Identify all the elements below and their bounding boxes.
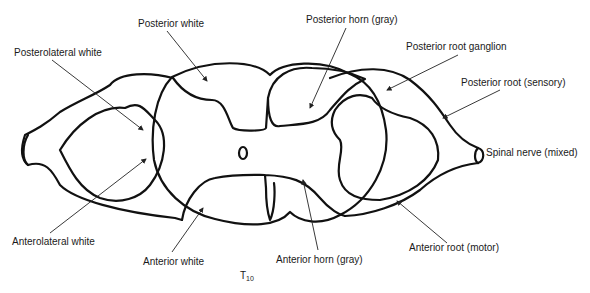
left-ganglion-outline [60, 105, 164, 201]
label-posterolateral-white: Posterolateral white [14, 47, 102, 59]
gray-matter-outline [173, 68, 365, 131]
central-canal [239, 147, 247, 159]
label-posterior-white: Posterior white [138, 18, 204, 30]
right-nerve-end [475, 148, 478, 163]
leader-posterolateral-white [52, 60, 143, 130]
leader-posterior-root [443, 90, 500, 118]
level-subscript: 10 [246, 275, 254, 282]
label-anterior-horn: Anterior horn (gray) [276, 254, 363, 266]
label-spinal-nerve: Spinal nerve (mixed) [486, 147, 578, 159]
leader-anterior-white [172, 208, 203, 252]
leader-anterior-horn [303, 180, 318, 250]
label-spinal-level: T10 [240, 270, 254, 285]
right-root-outline [330, 69, 483, 216]
label-anterior-white: Anterior white [143, 256, 204, 268]
label-anterior-root: Anterior root (motor) [409, 242, 499, 254]
leader-anterolateral-white [50, 159, 146, 233]
gray-matter-anterior [182, 175, 345, 220]
right-ganglion-outline [332, 95, 439, 200]
label-posterior-root: Posterior root (sensory) [461, 77, 565, 89]
label-posterior-root-ganglion: Posterior root ganglion [406, 41, 507, 53]
spinal-cord-diagram: Posterior white Posterolateral white Pos… [0, 0, 590, 293]
leader-posterior-white [167, 31, 207, 81]
label-anterolateral-white: Anterolateral white [12, 236, 95, 248]
label-posterior-horn: Posterior horn (gray) [306, 14, 398, 26]
leader-anterior-root [397, 201, 447, 243]
